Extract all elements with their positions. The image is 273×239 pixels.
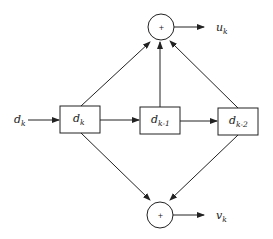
- output-v-label: vk: [216, 209, 227, 224]
- register-dk-2: dk-2: [218, 108, 258, 135]
- adder-top: +: [148, 14, 174, 40]
- tap-dk-to-bottom: [81, 133, 150, 200]
- register-dk-1: dk-1: [140, 107, 180, 134]
- tap-dk-to-top: [81, 42, 150, 106]
- tap-dk2-to-top: [170, 41, 238, 108]
- output-u-label: uk: [216, 21, 228, 36]
- register-dk: dk: [60, 106, 100, 133]
- input-label: dk: [14, 113, 26, 128]
- encoder-diagram: dk dk dk-1 dk-2 + uk + vk: [0, 0, 273, 239]
- svg-text:+: +: [159, 24, 165, 32]
- tap-dk2-to-bottom: [170, 135, 238, 200]
- adder-bottom: +: [147, 202, 173, 228]
- svg-text:+: +: [158, 212, 164, 220]
